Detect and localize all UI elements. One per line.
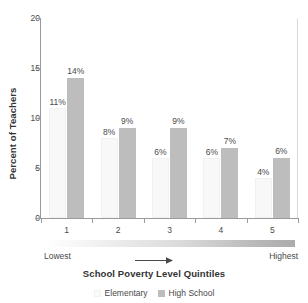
- bar-elementary-q5[interactable]: 4%: [255, 178, 272, 218]
- x-axis-line: [40, 218, 298, 219]
- bar-group: 6%7%: [195, 18, 246, 218]
- legend-item-elementary[interactable]: Elementary: [94, 288, 148, 298]
- y-tick-mark: [35, 68, 40, 69]
- legend-item-high-school[interactable]: High School: [158, 288, 215, 298]
- y-axis-title: Percent of Teachers: [7, 69, 18, 199]
- y-tick-mark: [35, 218, 40, 219]
- x-tick-mark: [195, 218, 196, 223]
- bar-high-school-q2[interactable]: 9%: [119, 128, 136, 218]
- bar-value-label: 7%: [224, 136, 236, 146]
- bar-value-label: 6%: [206, 147, 218, 157]
- bar-elementary-q4[interactable]: 6%: [203, 158, 220, 218]
- x-tick-label-q5: 5: [257, 225, 287, 235]
- bar-group: 4%6%: [247, 18, 298, 218]
- chart-legend: ElementaryHigh School: [0, 288, 308, 298]
- y-tick-mark: [35, 118, 40, 119]
- bar-value-label: 8%: [103, 127, 115, 137]
- bar-high-school-q3[interactable]: 9%: [170, 128, 187, 218]
- bar-value-label: 14%: [67, 66, 84, 76]
- bar-elementary-q3[interactable]: 6%: [152, 158, 169, 218]
- legend-swatch-high-school: [158, 290, 165, 297]
- bar-value-label: 9%: [172, 116, 184, 126]
- right-arrow-icon: [135, 256, 175, 265]
- bar-chart: Percent of Teachers 05101520 11%14%8%9%6…: [0, 0, 308, 303]
- x-tick-label-q3: 3: [155, 225, 185, 235]
- legend-label: High School: [169, 288, 215, 298]
- y-tick-mark: [35, 168, 40, 169]
- x-tick-mark: [144, 218, 145, 223]
- bar-high-school-q1[interactable]: 14%: [67, 78, 84, 218]
- x-tick-mark: [41, 218, 42, 223]
- x-tick-label-q4: 4: [206, 225, 236, 235]
- scale-label-highest: Highest: [269, 251, 298, 261]
- bar-value-label: 11%: [49, 97, 65, 107]
- x-tick-mark: [298, 218, 299, 223]
- x-axis-title: School Poverty Level Quintiles: [0, 268, 308, 279]
- legend-label: Elementary: [105, 288, 148, 298]
- plot-area: 11%14%8%9%6%9%6%7%4%6%: [41, 18, 298, 218]
- bar-group: 8%9%: [92, 18, 143, 218]
- bar-high-school-q5[interactable]: 6%: [273, 158, 290, 218]
- bar-value-label: 6%: [275, 146, 287, 156]
- scale-label-lowest: Lowest: [44, 251, 71, 261]
- x-tick-label-q1: 1: [52, 225, 82, 235]
- bar-group: 11%14%: [41, 18, 92, 218]
- bar-elementary-q2[interactable]: 8%: [101, 138, 118, 218]
- bar-elementary-q1[interactable]: 11%: [49, 108, 66, 218]
- x-tick-label-q2: 2: [103, 225, 133, 235]
- x-tick-mark: [92, 218, 93, 223]
- poverty-gradient-strip: [45, 240, 295, 247]
- legend-swatch-elementary: [94, 290, 101, 297]
- bar-value-label: 4%: [257, 167, 269, 177]
- bar-value-label: 9%: [121, 116, 133, 126]
- bar-group: 6%9%: [144, 18, 195, 218]
- bar-value-label: 6%: [154, 147, 166, 157]
- y-tick-mark: [35, 18, 40, 19]
- x-tick-mark: [247, 218, 248, 223]
- bar-high-school-q4[interactable]: 7%: [221, 148, 238, 218]
